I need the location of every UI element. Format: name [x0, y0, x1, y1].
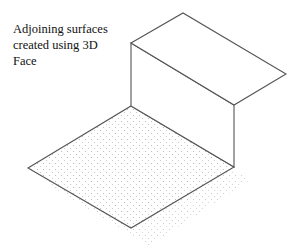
3d-face-drawing	[0, 0, 302, 249]
